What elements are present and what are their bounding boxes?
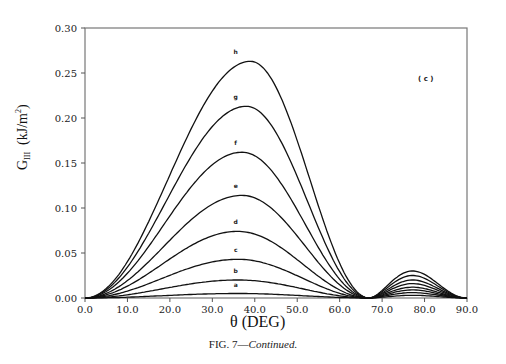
curve-label-d: d: [234, 218, 238, 225]
plot-border: [85, 28, 467, 298]
curve-labels: abcdefgh: [234, 48, 239, 287]
caption-prefix: FIG. 7—: [209, 338, 249, 350]
panel-label: ( c ): [418, 75, 433, 83]
curve-a: [85, 294, 467, 299]
curve-label-a: a: [234, 281, 238, 288]
x-tick-label: 10.0: [116, 304, 138, 315]
x-tick-label: 90.0: [456, 304, 478, 315]
curve-e: [85, 195, 467, 298]
y-tick-label: 0.10: [55, 203, 77, 214]
curve-label-e: e: [234, 182, 238, 189]
y-tick-label: 0.20: [55, 113, 77, 124]
y-axis-label: GIII (kJ/m2): [14, 104, 32, 170]
curve-label-h: h: [234, 48, 238, 55]
curve-d: [85, 231, 467, 298]
curve-h: [85, 61, 467, 298]
y-tick-label: 0.30: [55, 23, 77, 34]
curve-label-b: b: [234, 267, 239, 274]
caption-italic: Continued.: [249, 338, 298, 350]
y-tick-label: 0.25: [55, 68, 77, 79]
y-tick-label: 0.15: [55, 158, 77, 169]
x-tick-label: 30.0: [201, 304, 223, 315]
y-tick-label: 0.00: [55, 293, 77, 304]
x-tick-label: 60.0: [329, 304, 351, 315]
x-tick-label: 20.0: [159, 304, 181, 315]
chart: 0.010.020.030.040.050.060.070.080.090.00…: [0, 0, 506, 364]
curves: [85, 61, 467, 298]
curve-g: [85, 106, 467, 298]
curve-label-g: g: [234, 93, 238, 101]
x-tick-label: 50.0: [286, 304, 308, 315]
y-tick-label: 0.05: [55, 248, 77, 259]
x-axis-label: θ (DEG): [230, 313, 285, 331]
figure-caption: FIG. 7—Continued.: [0, 338, 506, 350]
x-tick-label: 0.0: [77, 304, 93, 315]
x-tick-label: 80.0: [413, 304, 435, 315]
x-tick-label: 70.0: [371, 304, 393, 315]
curve-label-c: c: [234, 246, 238, 253]
curve-label-f: f: [234, 139, 237, 146]
